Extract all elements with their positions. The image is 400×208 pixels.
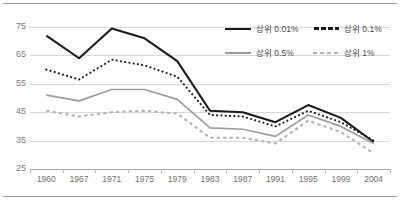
y-axis-tick-label: 65 [4, 49, 26, 59]
y-axis-tick-label: 35 [4, 135, 26, 145]
x-axis-tick-mark [325, 169, 326, 173]
y-axis-tick-label: 45 [4, 106, 26, 116]
legend-swatch-solid-dark-icon [225, 24, 251, 33]
legend-swatch-dotted-dark-icon [313, 24, 339, 33]
x-axis-tick-mark [259, 169, 260, 173]
series-line-2 [46, 89, 373, 143]
x-axis-line [30, 169, 390, 170]
legend-label-1: 상위 0.1% [344, 22, 382, 34]
x-axis-tick-mark [30, 169, 31, 173]
series-line-3 [46, 111, 373, 154]
legend-swatch-dashed-gray-icon [313, 48, 339, 57]
x-axis-tick-mark [390, 169, 391, 173]
y-axis-tick-label: 25 [4, 163, 26, 173]
legend-item-1[interactable]: 상위 0.1% [313, 22, 382, 34]
x-axis-tick-mark [95, 169, 96, 173]
legend-item-2[interactable]: 상위 0.5% [225, 46, 294, 58]
legend-label-0: 상위 0.01% [256, 22, 298, 34]
legend-item-0[interactable]: 상위 0.01% [225, 22, 298, 34]
x-axis-tick-mark [357, 169, 358, 173]
line-chart: 253545556575 196019671971197519791983198… [0, 0, 400, 208]
frame-bottom-rule [3, 196, 397, 197]
legend: 상위 0.01% 상위 0.1% 상위 0.5% 상위 1% [225, 22, 393, 66]
x-axis-tick-mark [128, 169, 129, 173]
legend-swatch-solid-gray-icon [225, 48, 251, 57]
x-axis-tick-label: 2004 [354, 174, 394, 184]
x-axis-tick-mark [194, 169, 195, 173]
y-axis-tick-label: 55 [4, 78, 26, 88]
legend-item-3[interactable]: 상위 1% [313, 46, 375, 58]
frame-top-rule [3, 3, 397, 4]
legend-label-2: 상위 0.5% [256, 46, 294, 58]
x-axis-tick-mark [161, 169, 162, 173]
x-axis-tick-mark [63, 169, 64, 173]
x-axis-tick-mark [226, 169, 227, 173]
legend-label-3: 상위 1% [344, 46, 375, 58]
x-axis-tick-mark [292, 169, 293, 173]
y-axis-tick-label: 75 [4, 21, 26, 31]
